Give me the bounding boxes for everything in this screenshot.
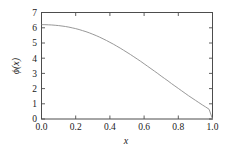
y-tick-label: 3 (32, 69, 37, 79)
y-tick-label: 1 (32, 99, 37, 109)
x-tick-label: 0.0 (36, 122, 48, 132)
y-tick-label: 4 (32, 54, 37, 64)
x-tick-label: 0.6 (138, 122, 150, 132)
chart-figure: 0.0 0.2 0.4 0.6 0.8 1.0 0 1 2 3 4 5 6 7 … (0, 0, 232, 150)
x-tick-label: 1.0 (207, 122, 219, 132)
y-tick-label: 2 (32, 84, 37, 94)
y-tick-label: 6 (32, 23, 37, 33)
y-tick-label: 0 (32, 114, 37, 124)
x-tick-label: 0.2 (70, 122, 82, 132)
y-tick-label: 5 (32, 38, 37, 48)
x-axis-label: x (123, 135, 129, 146)
y-axis-label: ϕ(x) (10, 57, 22, 74)
chart-svg: 0.0 0.2 0.4 0.6 0.8 1.0 0 1 2 3 4 5 6 7 … (0, 0, 232, 150)
x-tick-label: 0.8 (172, 122, 184, 132)
x-tick-label: 0.4 (104, 122, 116, 132)
y-tick-label: 7 (32, 8, 37, 18)
